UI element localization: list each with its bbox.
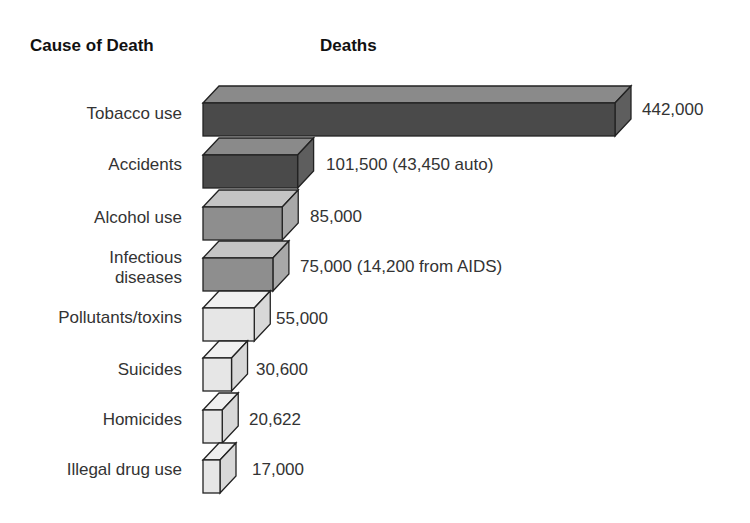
- bar-alcohol: [203, 190, 298, 240]
- bar-front-face: [203, 410, 222, 443]
- bar-top-face: [203, 138, 314, 155]
- bar-top-face: [203, 86, 631, 103]
- bar-pollutants: [203, 291, 270, 341]
- bar-front-face: [203, 308, 254, 341]
- value-label-accidents: 101,500 (43,450 auto): [326, 155, 493, 175]
- value-label-pollutants: 55,000: [276, 309, 328, 329]
- bar-front-face: [203, 460, 220, 493]
- value-label-tobacco: 442,000: [642, 100, 703, 120]
- bar-front-face: [203, 258, 273, 291]
- bar-front-face: [203, 207, 282, 240]
- bar-homicides: [203, 393, 238, 443]
- bar-suicides: [203, 341, 248, 391]
- bar-front-face: [203, 103, 615, 136]
- value-label-homicides: 20,622: [249, 410, 301, 430]
- value-label-illegal-drugs: 17,000: [252, 460, 304, 480]
- bar-front-face: [203, 155, 298, 188]
- bar-front-face: [203, 358, 232, 391]
- bar-tobacco: [203, 86, 631, 136]
- value-label-infectious: 75,000 (14,200 from AIDS): [300, 257, 502, 277]
- value-label-alcohol: 85,000: [310, 207, 362, 227]
- bar-infectious: [203, 241, 289, 291]
- bar-illegal-drugs: [203, 443, 236, 493]
- bar-accidents: [203, 138, 314, 188]
- value-label-suicides: 30,600: [256, 360, 308, 380]
